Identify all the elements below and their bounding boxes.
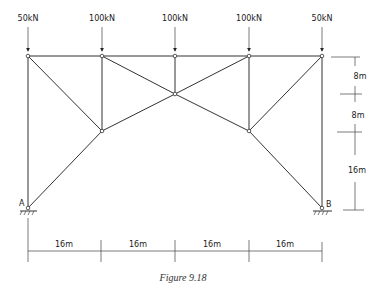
truss-diagram: 50kN 100kN 100kN 100kN 50kN [0,0,379,297]
load-label-2: 100kN [89,14,115,23]
hdim-label-2: 16m [129,240,147,249]
hdim-label-3: 16m [203,240,221,249]
support-a-label: A [19,199,25,208]
load-arrows [28,27,322,51]
truss-members [28,56,322,208]
vdim-label-1: 8m [354,72,367,81]
vdim-label-3: 16m [348,166,366,175]
figure-caption: Figure 9.18 [159,272,207,283]
support-b-label: B [326,200,332,209]
vdim-label-2: 8m [352,111,365,120]
load-label-1: 50kN [18,14,39,23]
load-label-4: 100kN [236,14,262,23]
load-label-3: 100kN [162,14,188,23]
support-b [313,211,332,215]
load-label-5: 50kN [312,14,333,23]
hdim-label-1: 16m [55,240,73,249]
support-a [20,211,37,215]
hdim-label-4: 16m [276,240,294,249]
